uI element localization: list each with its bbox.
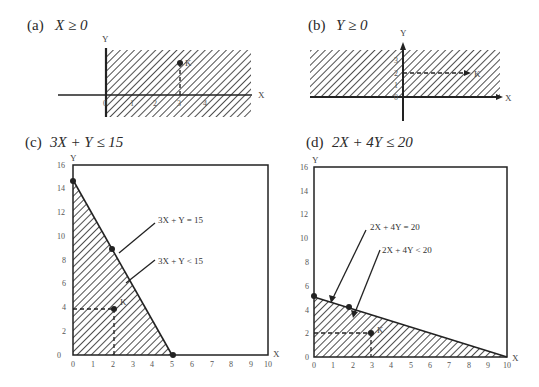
point-k-c [111,306,117,312]
svg-text:2: 2 [305,329,309,338]
svg-text:2: 2 [394,69,398,78]
svg-text:2: 2 [62,327,66,336]
svg-text:6: 6 [428,361,432,370]
svg-text:1: 1 [331,361,335,370]
svg-text:4: 4 [62,303,66,312]
point-k-d [368,330,374,336]
svg-text:8: 8 [229,360,233,369]
y-label-b: Y [400,28,407,38]
point-k-a [177,60,183,66]
panel-d-tag: (d) [306,134,324,151]
svg-text:0: 0 [57,351,61,360]
svg-text:X: X [273,349,280,359]
svg-text:9: 9 [249,360,253,369]
svg-text:0: 0 [312,361,316,370]
svg-text:X: X [512,353,519,363]
svg-text:10: 10 [264,360,272,369]
svg-text:0: 0 [103,99,107,108]
svg-text:Y: Y [312,155,319,165]
x-ticks-d: 0 1 2 3 4 5 6 7 8 9 10 [312,361,511,370]
panel-c: (c) 3X + Y ≤ 15 Y X 0 2 4 6 8 10 12 14 1… [25,134,280,369]
svg-text:1: 1 [394,81,398,90]
svg-text:K: K [120,297,127,307]
svg-text:Y: Y [70,153,77,163]
svg-text:10: 10 [57,232,65,241]
eq-label-c: 3X + Y = 15 [158,215,203,225]
svg-text:4: 4 [305,306,309,315]
svg-text:8: 8 [467,361,471,370]
svg-text:10: 10 [300,234,308,243]
svg-text:1: 1 [91,360,95,369]
svg-text:14: 14 [300,187,308,196]
svg-text:3: 3 [131,360,135,369]
panel-a-expr: X ≥ 0 [54,17,88,33]
svg-text:K: K [377,325,384,335]
svg-text:1: 1 [130,99,134,108]
svg-text:3: 3 [370,361,374,370]
x-ticks-c: 0 1 2 3 4 5 6 7 8 9 10 [71,360,272,369]
svg-text:9: 9 [486,361,490,370]
svg-text:6: 6 [190,360,194,369]
svg-text:3: 3 [177,99,181,108]
svg-text:8: 8 [305,258,309,267]
svg-text:14: 14 [57,184,65,193]
svg-text:4: 4 [150,360,154,369]
y-ticks-c: 0 2 4 6 8 10 12 14 16 [57,161,66,360]
svg-text:12: 12 [300,210,308,219]
lt-label-d: 2X + 4Y < 20 [382,245,432,255]
svg-text:5: 5 [409,361,413,370]
svg-text:4: 4 [203,99,207,108]
x-label-a: X [258,90,265,100]
panel-a: (a) X ≥ 0 Y X 0 1 2 3 4 K [27,17,265,117]
eq-label-d: 2X + 4Y = 20 [370,222,420,232]
y-ticks-d: 0 2 4 6 8 10 12 14 16 [300,163,309,362]
svg-text:0: 0 [305,353,309,362]
svg-text:16: 16 [300,163,308,172]
svg-text:K: K [474,69,481,79]
svg-text:10: 10 [503,361,511,370]
svg-text:K: K [185,58,192,68]
inequality-figure: (a) X ≥ 0 Y X 0 1 2 3 4 K (b) Y ≥ 0 Y X … [0,0,539,387]
svg-text:2: 2 [111,360,115,369]
panel-c-expr: 3X + Y ≤ 15 [49,134,124,150]
svg-text:16: 16 [57,161,65,170]
svg-text:8: 8 [62,256,66,265]
x-label-b: X [505,93,512,103]
panel-c-tag: (c) [25,134,42,151]
svg-text:2: 2 [351,361,355,370]
svg-text:12: 12 [57,208,65,217]
svg-text:6: 6 [305,282,309,291]
svg-text:2: 2 [153,99,157,108]
panel-d-expr: 2X + 4Y ≤ 20 [332,134,413,150]
panel-d: (d) 2X + 4Y ≤ 20 Y X 0 2 4 6 8 10 12 14 … [300,134,519,370]
panel-a-tag: (a) [27,17,44,34]
svg-text:5: 5 [170,360,174,369]
svg-text:0: 0 [71,360,75,369]
y-label-a: Y [102,34,109,44]
panel-b-tag: (b) [308,17,326,34]
lt-label-c: 3X + Y < 15 [158,256,203,266]
svg-text:0: 0 [394,93,398,102]
svg-text:7: 7 [210,360,214,369]
panel-b: (b) Y ≥ 0 Y X 0 1 2 3 K [308,17,512,121]
panel-b-expr: Y ≥ 0 [336,17,368,33]
svg-text:3: 3 [394,56,398,65]
svg-text:7: 7 [447,361,451,370]
svg-text:4: 4 [389,361,393,370]
svg-text:6: 6 [62,279,66,288]
